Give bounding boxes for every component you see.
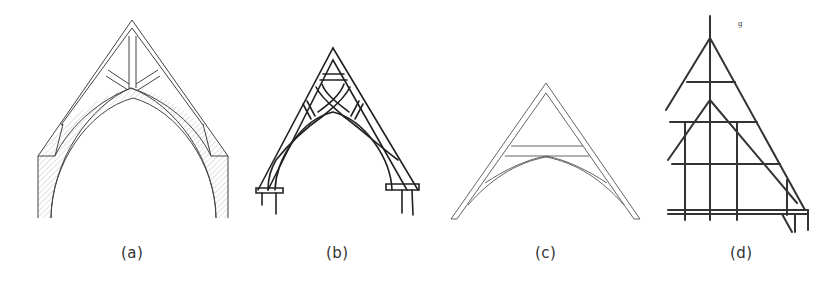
caption-b: (b) xyxy=(326,244,349,262)
truss-d-drawing: g xyxy=(0,0,840,281)
annotation-g: g xyxy=(738,20,743,28)
caption-a: (a) xyxy=(121,244,143,262)
caption-d: (d) xyxy=(730,244,753,262)
figure-d: g xyxy=(0,0,840,281)
caption-c: (c) xyxy=(535,244,556,262)
